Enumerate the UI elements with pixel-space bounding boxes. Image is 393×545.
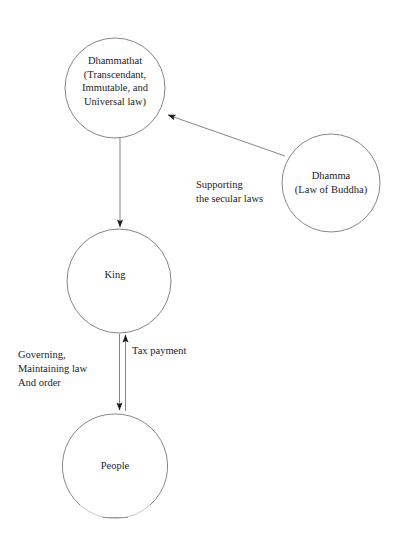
node-circle-people [115,414,168,505]
edge-label-governing-maintaining-law-and-order: Governing, Maintaining law And order [18,348,128,390]
edge-label-supporting-the-secular-laws: Supporting the secular laws [196,178,290,206]
node-circle-dhammathat [65,38,165,138]
node-circle-dhamma [282,134,380,232]
node-circle-king [67,229,171,333]
node-circle-people-left [62,414,115,505]
edge-label-tax-payment: Tax payment [132,344,212,358]
diagram-canvas [0,0,393,545]
node-circle-people-bottom-faint [80,505,150,519]
edge-dhamma-to-dhammathat [168,115,285,156]
